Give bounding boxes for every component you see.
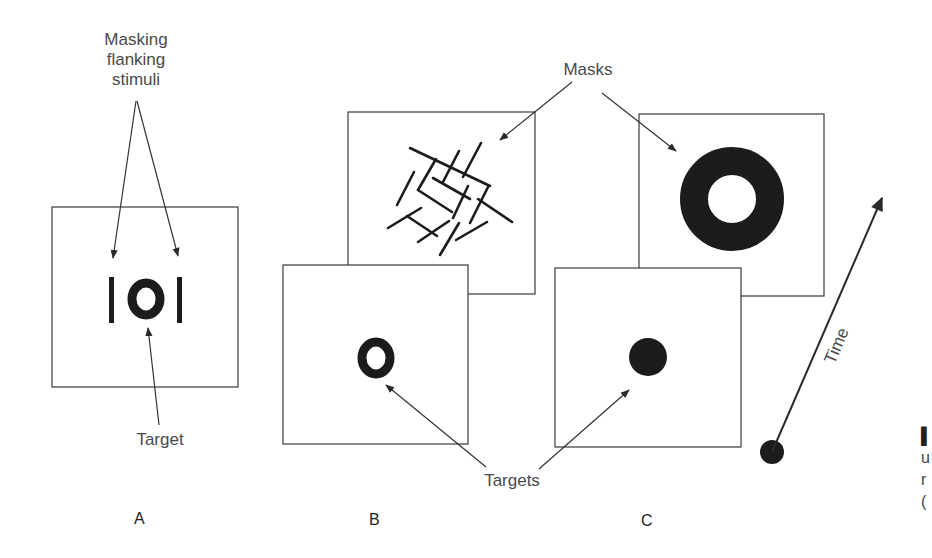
label-masks: Masks: [548, 60, 628, 80]
label-targets: Targets: [467, 471, 557, 491]
label-line-3: stimuli: [84, 70, 188, 90]
caption-fragment-line-1: ▌: [921, 425, 932, 447]
panel-a: [52, 101, 238, 425]
caption-fragment-line-3: r: [921, 469, 932, 491]
target-disc-c: [629, 338, 667, 376]
panel-c: [539, 93, 824, 469]
caption-fragment: ▌ u r (: [921, 425, 932, 513]
panel-b-target-frame: [283, 265, 468, 444]
panel-letter-a: A: [134, 510, 145, 528]
label-line-2: flanking: [84, 50, 188, 70]
label-masking-flanking-stimuli: Masking flanking stimuli: [84, 30, 188, 90]
panel-letter-c: C: [641, 512, 653, 530]
flanker-left-bar: [109, 277, 114, 323]
caption-fragment-line-4: (: [921, 491, 932, 513]
label-target: Target: [120, 430, 200, 450]
panel-letter-b: B: [369, 511, 380, 529]
flanker-right-bar: [177, 277, 182, 323]
caption-fragment-line-2: u: [921, 447, 932, 469]
label-line-1: Masking: [84, 30, 188, 50]
arrow-to-line-mask: [500, 82, 572, 140]
panel-a-frame: [52, 207, 238, 387]
panel-b: [283, 82, 572, 467]
